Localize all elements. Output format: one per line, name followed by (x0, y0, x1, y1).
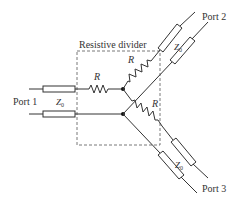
port2-transmission-line (123, 12, 208, 114)
port2-impedance-label: Z0 (174, 42, 182, 53)
resistor-port1 (86, 85, 123, 93)
port1-transmission-line (29, 86, 123, 117)
port1-label: Port 1 (13, 96, 37, 107)
port3-impedance-label: Z0 (175, 160, 183, 171)
resistor-port3-label: R (151, 98, 158, 109)
port1-impedance-label: Z0 (56, 97, 64, 108)
port3-transmission-line (123, 114, 208, 193)
port2-label: Port 2 (202, 11, 226, 22)
resistive-divider-diagram: Resistive divider Port 1 Z0 R R Z0 Port … (0, 0, 240, 207)
divider-title: Resistive divider (79, 39, 147, 50)
resistor-port1-label: R (93, 71, 100, 82)
resistor-port2-label: R (127, 54, 134, 65)
port3-label: Port 3 (202, 183, 226, 194)
